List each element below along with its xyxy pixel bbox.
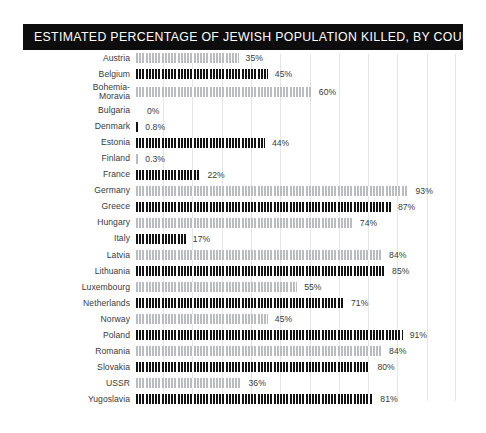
bar bbox=[136, 138, 265, 148]
value-label: 71% bbox=[351, 298, 368, 308]
plot-right-edge bbox=[455, 54, 456, 401]
bar-zone: 17% bbox=[136, 231, 440, 247]
bar-zone: 0% bbox=[136, 103, 440, 119]
bar-zone: 36% bbox=[136, 375, 440, 391]
bar-row: USSR36% bbox=[0, 375, 440, 391]
bar bbox=[136, 378, 241, 388]
bar bbox=[136, 234, 186, 244]
value-label: 0.3% bbox=[145, 154, 165, 164]
chart-screenshot: ESTIMATED PERCENTAGE OF JEWISH POPULATIO… bbox=[0, 0, 486, 433]
bar-texture bbox=[136, 53, 239, 63]
value-label: 22% bbox=[207, 170, 224, 180]
bar bbox=[136, 346, 382, 356]
bar bbox=[136, 250, 382, 260]
bar-row: Norway45% bbox=[0, 311, 440, 327]
value-label: 44% bbox=[272, 138, 289, 148]
bar-row: Slovakia80% bbox=[0, 359, 440, 375]
bar-texture bbox=[136, 378, 241, 388]
bar-texture bbox=[136, 202, 391, 212]
bar-zone: 93% bbox=[136, 183, 440, 199]
bar-row: Estonia44% bbox=[0, 135, 440, 151]
bar-zone: 44% bbox=[136, 135, 440, 151]
bar-row: Latvia84% bbox=[0, 247, 440, 263]
value-label: 80% bbox=[377, 362, 394, 372]
category-label: Norway bbox=[0, 315, 136, 324]
bar-row: Italy17% bbox=[0, 231, 440, 247]
bar bbox=[136, 154, 138, 164]
bar-texture bbox=[136, 87, 312, 97]
category-label: Germany bbox=[0, 186, 136, 195]
bar bbox=[136, 282, 297, 292]
bar-texture bbox=[136, 69, 268, 79]
bar bbox=[136, 314, 268, 324]
bar-zone: 45% bbox=[136, 66, 440, 82]
bar-row: Germany93% bbox=[0, 183, 440, 199]
bar-zone: 87% bbox=[136, 199, 440, 215]
value-label: 0% bbox=[147, 106, 160, 116]
bar bbox=[136, 186, 408, 196]
bar-zone: 22% bbox=[136, 167, 440, 183]
bar-texture bbox=[136, 154, 138, 164]
bar-zone: 0.8% bbox=[136, 119, 440, 135]
value-label: 87% bbox=[398, 202, 415, 212]
bar-row: Finland0.3% bbox=[0, 151, 440, 167]
bar-texture bbox=[136, 266, 385, 276]
value-label: 91% bbox=[410, 330, 427, 340]
bar-zone: 0.3% bbox=[136, 151, 440, 167]
value-label: 93% bbox=[415, 186, 432, 196]
bar bbox=[136, 53, 239, 63]
bar bbox=[136, 202, 391, 212]
bar bbox=[136, 170, 200, 180]
category-label: Netherlands bbox=[0, 299, 136, 308]
bar-row: Bohemia- Moravia60% bbox=[0, 82, 440, 103]
bar bbox=[136, 266, 385, 276]
bar-texture bbox=[136, 298, 344, 308]
value-label: 35% bbox=[246, 53, 263, 63]
chart-title-bar: ESTIMATED PERCENTAGE OF JEWISH POPULATIO… bbox=[23, 24, 463, 50]
value-label: 81% bbox=[380, 394, 397, 404]
category-label: Yugoslavia bbox=[0, 395, 136, 404]
bar-row: Poland91% bbox=[0, 327, 440, 343]
bar-row: Bulgaria0% bbox=[0, 103, 440, 119]
bar-texture bbox=[136, 282, 297, 292]
bar-zone: 35% bbox=[136, 50, 440, 66]
category-label: Denmark bbox=[0, 122, 136, 131]
category-label: Romania bbox=[0, 347, 136, 356]
bar-row: Yugoslavia81% bbox=[0, 391, 440, 407]
bar-zone: 81% bbox=[136, 391, 440, 407]
category-label: USSR bbox=[0, 379, 136, 388]
value-label: 17% bbox=[193, 234, 210, 244]
bar-texture bbox=[136, 346, 382, 356]
value-label: 0.8% bbox=[145, 122, 165, 132]
category-label: Hungary bbox=[0, 218, 136, 227]
bar-zone: 45% bbox=[136, 311, 440, 327]
bar-row: Austria35% bbox=[0, 50, 440, 66]
bar-texture bbox=[136, 138, 265, 148]
category-label: Bulgaria bbox=[0, 106, 136, 115]
bar-zone: 80% bbox=[136, 359, 440, 375]
bar-row: Belgium45% bbox=[0, 66, 440, 82]
bar-row: Romania84% bbox=[0, 343, 440, 359]
bar-row: Luxembourg55% bbox=[0, 279, 440, 295]
bar bbox=[136, 298, 344, 308]
category-label: Estonia bbox=[0, 138, 136, 147]
bar-texture bbox=[136, 394, 373, 404]
page-title: ESTIMATED PERCENTAGE OF JEWISH POPULATIO… bbox=[34, 30, 486, 44]
bar-row: Netherlands71% bbox=[0, 295, 440, 311]
bar-row: Denmark0.8% bbox=[0, 119, 440, 135]
bar-zone: 84% bbox=[136, 247, 440, 263]
bar bbox=[136, 218, 353, 228]
bar-texture bbox=[136, 250, 382, 260]
bar-zone: 84% bbox=[136, 343, 440, 359]
bar-zone: 85% bbox=[136, 263, 440, 279]
value-label: 60% bbox=[319, 87, 336, 97]
value-label: 45% bbox=[275, 69, 292, 79]
bar-zone: 55% bbox=[136, 279, 440, 295]
bar-texture bbox=[136, 186, 408, 196]
category-label: Poland bbox=[0, 331, 136, 340]
bar-rows-container: Austria35%Belgium45%Bohemia- Moravia60%B… bbox=[0, 50, 440, 405]
bar-texture bbox=[136, 218, 353, 228]
bar-row: Hungary74% bbox=[0, 215, 440, 231]
value-label: 55% bbox=[304, 282, 321, 292]
bar-texture bbox=[136, 234, 186, 244]
